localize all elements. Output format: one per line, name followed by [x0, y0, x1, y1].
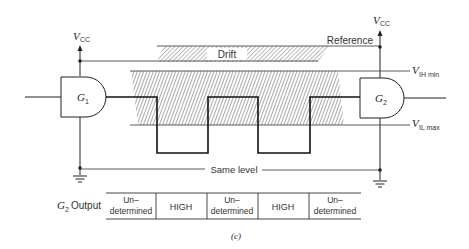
- svg-text:1: 1: [85, 98, 89, 105]
- ground-icon: [73, 176, 87, 182]
- table-cell: Un– determined: [110, 195, 153, 216]
- svg-text:G: G: [375, 92, 383, 104]
- svg-text:HIGH: HIGH: [272, 202, 295, 212]
- figure-caption: (c): [231, 231, 241, 241]
- vih-min-label: V IH min: [412, 64, 439, 78]
- table-cell: Un– determined: [314, 195, 357, 216]
- table-cell: HIGH: [170, 202, 193, 212]
- table-cell: Un– determined: [211, 195, 254, 216]
- svg-text:determined: determined: [110, 206, 153, 216]
- svg-text:G: G: [77, 91, 85, 103]
- svg-text:Output: Output: [71, 200, 101, 211]
- drift-band: Drift: [157, 46, 380, 62]
- svg-text:determined: determined: [314, 206, 357, 216]
- svg-text:HIGH: HIGH: [170, 202, 193, 212]
- svg-text:IH min: IH min: [419, 71, 439, 78]
- svg-text:Un–: Un–: [224, 195, 240, 205]
- svg-text:Un–: Un–: [123, 195, 139, 205]
- ground-icon: [373, 181, 387, 187]
- gate-g2: G 2: [360, 78, 446, 118]
- reference-label: Reference: [327, 35, 374, 46]
- g2-output-table: G 2 Output Un– determined HIGH Un– deter…: [57, 193, 361, 219]
- svg-text:CC: CC: [380, 20, 390, 27]
- drift-label: Drift: [218, 49, 237, 60]
- arrow-up-icon: [78, 45, 83, 51]
- logic-noise-margin-diagram: Drift Reference V IH min V IL max V CC G…: [0, 0, 469, 249]
- noise-margin-band: [131, 71, 344, 125]
- svg-text:2: 2: [383, 99, 387, 106]
- svg-text:2: 2: [65, 206, 69, 213]
- g2-output-label: G 2 Output: [57, 199, 101, 213]
- svg-text:CC: CC: [80, 36, 90, 43]
- same-level-label: Same level: [211, 164, 258, 175]
- svg-text:determined: determined: [211, 206, 254, 216]
- same-level: Same level: [80, 164, 380, 175]
- svg-text:G: G: [57, 199, 65, 211]
- svg-text:Un–: Un–: [327, 195, 343, 205]
- gate-g1: G 1: [25, 77, 106, 117]
- vil-max-label: V IL max: [412, 117, 440, 131]
- svg-text:IL max: IL max: [419, 124, 440, 131]
- table-cell: HIGH: [272, 202, 295, 212]
- arrow-up-icon: [378, 30, 383, 36]
